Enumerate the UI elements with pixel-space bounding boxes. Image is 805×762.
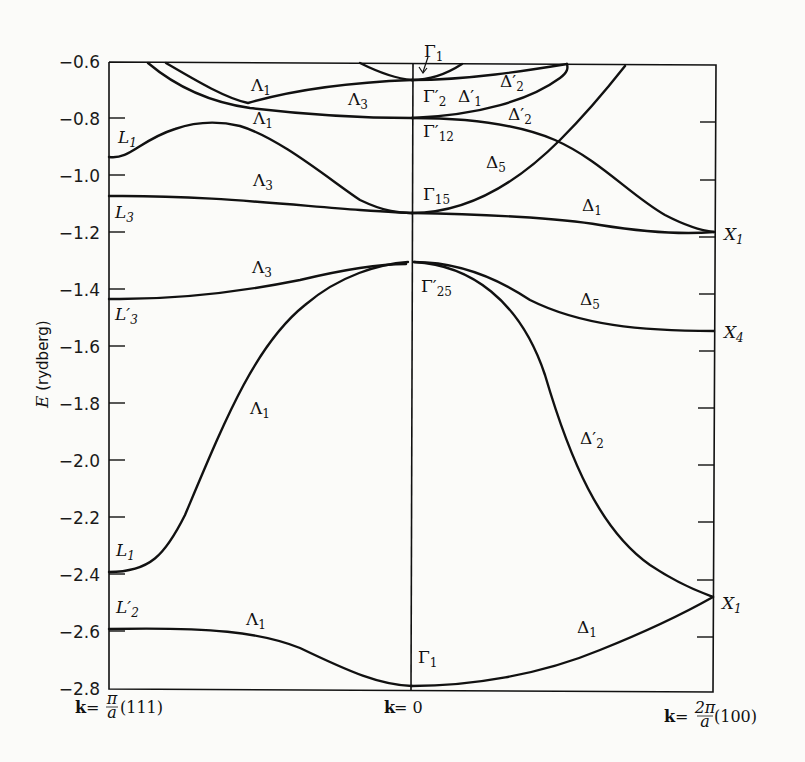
- svg-text:L1: L1: [115, 540, 135, 563]
- svg-text:Λ1: Λ1: [252, 108, 273, 131]
- svg-text:Δ′2: Δ′2: [500, 71, 524, 94]
- band-lambda3-mid: [109, 196, 412, 213]
- svg-text:−2.6: −2.6: [59, 622, 100, 642]
- svg-text:Γ1: Γ1: [418, 647, 437, 670]
- band-lambda1-lowest: [109, 629, 412, 686]
- svg-text:−0.6: −0.6: [59, 52, 100, 72]
- svg-text:L1: L1: [117, 127, 137, 150]
- band-lambda1-upper: [109, 122, 412, 213]
- svg-text:−2.8: −2.8: [59, 679, 100, 699]
- svg-text:X1: X1: [722, 224, 744, 247]
- svg-text:Λ3: Λ3: [251, 257, 272, 280]
- svg-text:Λ1: Λ1: [250, 75, 271, 98]
- y-axis-label: E (rydberg): [32, 320, 52, 409]
- svg-text:Λ1: Λ1: [245, 609, 266, 632]
- band-lambda3-upper: [148, 63, 412, 118]
- svg-text:a: a: [700, 712, 710, 731]
- svg-text:(100): (100): [714, 707, 757, 726]
- svg-text:−1.6: −1.6: [59, 337, 100, 357]
- svg-text:−2.4: −2.4: [59, 565, 100, 585]
- y-tick-labels: −0.6 −0.8 −1.0 −1.2 −1.4 −1.6 −1.8 −2.0 …: [59, 52, 100, 699]
- svg-text:X1: X1: [720, 593, 742, 616]
- svg-text:−0.8: −0.8: [59, 109, 100, 129]
- svg-text:−2.2: −2.2: [59, 508, 100, 528]
- svg-text:Δ5: Δ5: [580, 289, 600, 312]
- svg-text:=: =: [675, 707, 688, 726]
- svg-text:L′3: L′3: [114, 304, 138, 327]
- gamma-center-line: [411, 63, 413, 690]
- band-delta2p-valence: [414, 262, 713, 597]
- band-structure-chart: −0.6 −0.8 −1.0 −1.2 −1.4 −1.6 −1.8 −2.0 …: [0, 0, 805, 762]
- svg-text:=: =: [86, 698, 99, 717]
- svg-text:Λ3: Λ3: [252, 170, 273, 193]
- svg-text:Γ1: Γ1: [424, 41, 443, 64]
- svg-text:Δ′1: Δ′1: [458, 86, 482, 109]
- band-delta1-lowest: [412, 597, 713, 686]
- x-label-right: k = 2π a (100): [664, 698, 757, 731]
- point-labels: L1 L3 L′3 L1 L′2 Γ1 Γ′2 Γ′12 Γ15 Γ′25 Γ1…: [114, 41, 744, 670]
- bands-lambda: [109, 63, 412, 686]
- svg-text:Δ′2: Δ′2: [580, 428, 604, 451]
- svg-text:Λ3: Λ3: [347, 89, 368, 112]
- svg-text:Δ′2: Δ′2: [508, 104, 532, 127]
- svg-text:= 0: = 0: [394, 698, 423, 717]
- svg-text:(111): (111): [120, 698, 163, 717]
- svg-text:Δ1: Δ1: [577, 617, 597, 640]
- svg-text:−1.8: −1.8: [59, 394, 100, 414]
- svg-text:−2.0: −2.0: [59, 451, 100, 471]
- bands-delta: [412, 64, 714, 686]
- svg-text:−1.0: −1.0: [59, 166, 100, 186]
- svg-text:−1.2: −1.2: [59, 223, 100, 243]
- svg-text:X4: X4: [722, 322, 744, 345]
- svg-text:L′2: L′2: [115, 597, 139, 620]
- svg-text:Δ5: Δ5: [486, 152, 506, 175]
- x-axis-labels: k = π a (111) k = 0 k = 2π a (100): [75, 689, 757, 731]
- svg-text:L3: L3: [114, 202, 134, 225]
- svg-text:−1.4: −1.4: [59, 280, 100, 300]
- svg-text:a: a: [107, 703, 117, 722]
- band-gamma1-bowl-left: [360, 63, 412, 80]
- svg-text:Λ1: Λ1: [249, 398, 270, 421]
- svg-text:Γ′2: Γ′2: [423, 86, 446, 109]
- x-label-center: k = 0: [384, 698, 423, 717]
- svg-text:Γ15: Γ15: [423, 184, 450, 207]
- svg-text:Γ′25: Γ′25: [421, 276, 452, 299]
- svg-text:Γ′12: Γ′12: [423, 121, 454, 144]
- svg-text:Δ1: Δ1: [582, 195, 602, 218]
